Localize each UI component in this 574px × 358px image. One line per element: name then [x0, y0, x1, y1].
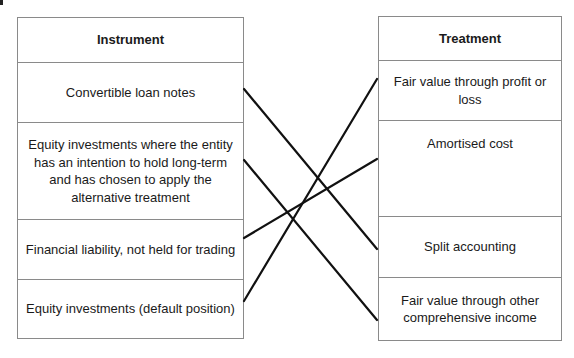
- link-equity-default-to-fvtpl: [244, 79, 377, 301]
- instrument-financial-liability: Financial liability, not held for tradin…: [18, 219, 243, 279]
- instrument-equity-long-term: Equity investments where the entity has …: [18, 122, 243, 219]
- link-convertible-to-split: [244, 89, 377, 249]
- instrument-header: Instrument: [18, 18, 243, 62]
- treatment-header: Treatment: [379, 17, 561, 60]
- treatment-split-accounting: Split accounting: [379, 216, 561, 277]
- instrument-convertible-loan-notes: Convertible loan notes: [18, 62, 243, 122]
- treatment-fvoci: Fair value through other comprehensive i…: [379, 277, 561, 340]
- link-equity-longterm-to-fvoci: [244, 160, 377, 320]
- instrument-table: Instrument Convertible loan notes Equity…: [17, 17, 244, 339]
- treatment-table: Treatment Fair value through profit or l…: [378, 16, 562, 341]
- cropped-label-mark: [0, 0, 3, 5]
- treatment-amortised-cost: Amortised cost: [379, 120, 561, 216]
- instrument-equity-default: Equity investments (default position): [18, 279, 243, 338]
- treatment-fvtpl: Fair value through profit or loss: [379, 60, 561, 120]
- link-liability-to-amortised: [244, 159, 377, 238]
